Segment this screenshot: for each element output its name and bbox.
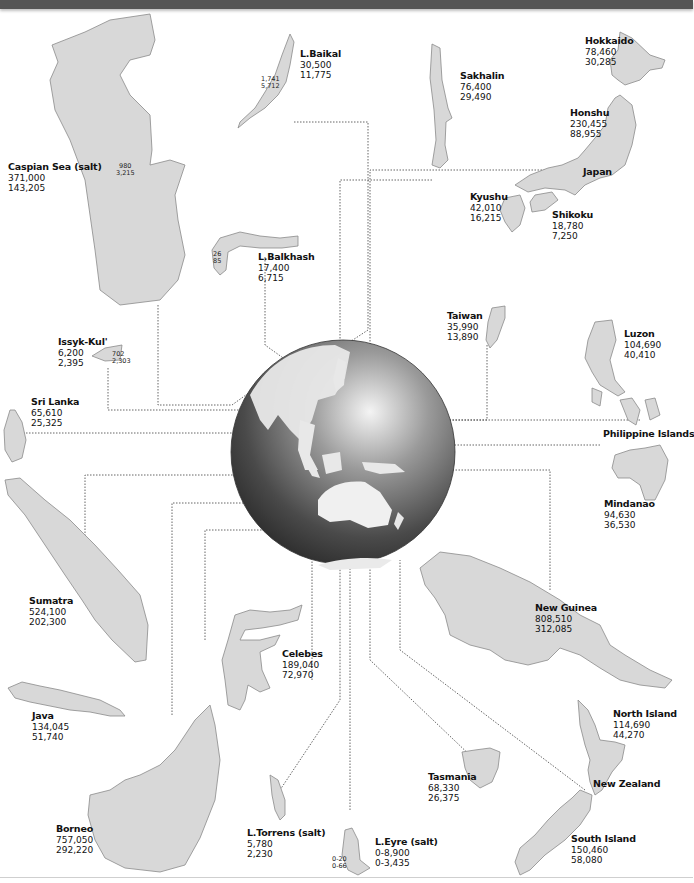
north-island-label: North Island 114,690 44,270 — [613, 709, 677, 740]
balkhash-area-mi: 6,715 — [258, 274, 314, 284]
baikal-area-mi: 11,775 — [300, 71, 341, 81]
caspian-depth: 980 3,215 — [116, 163, 135, 177]
eyre-area-mi: 0-3,435 — [375, 859, 438, 869]
sri-lanka-area-mi: 25,325 — [31, 419, 79, 429]
hokkaido-name: Hokkaido — [585, 36, 634, 46]
baikal-depth: 1,741 5,712 — [261, 76, 280, 90]
new-guinea-name: New Guinea — [535, 603, 597, 613]
taiwan-name: Taiwan — [447, 311, 483, 321]
shikoku-area-mi: 7,250 — [552, 232, 593, 242]
torrens-label: L.Torrens (salt) 5,780 2,230 — [247, 828, 325, 859]
luzon-shape — [585, 320, 625, 396]
torrens-name: L.Torrens (salt) — [247, 828, 325, 838]
balkhash-depth-ft: 85 — [213, 258, 221, 265]
south-island-area-mi: 58,080 — [571, 856, 636, 866]
honshu-label: Honshu 230,455 88,955 — [570, 108, 609, 139]
sri-lanka-label: Sri Lanka 65,610 25,325 — [31, 397, 79, 428]
shikoku-label: Shikoku 18,780 7,250 — [552, 210, 593, 241]
java-name: Java — [32, 711, 69, 721]
borneo-name: Borneo — [56, 824, 93, 834]
hokkaido-label: Hokkaido 78,460 30,285 — [585, 36, 634, 67]
torrens-area-mi: 2,230 — [247, 850, 325, 860]
taiwan-label: Taiwan 35,990 13,890 — [447, 311, 483, 342]
north-island-name: North Island — [613, 709, 677, 719]
sakhalin-name: Sakhalin — [460, 71, 504, 81]
sumatra-label: Sumatra 524,100 202,300 — [29, 596, 73, 627]
luzon-area-mi: 40,410 — [624, 351, 661, 361]
hokkaido-area-mi: 30,285 — [585, 58, 634, 68]
philippines-tag: Philippine Islands — [603, 428, 694, 439]
issyk-kul-name: Issyk-Kul' — [58, 337, 107, 347]
mindanao-area-mi: 36,530 — [604, 521, 655, 531]
honshu-area-mi: 88,955 — [570, 130, 609, 140]
luzon-label: Luzon 104,690 40,410 — [624, 329, 661, 360]
new-guinea-area-mi: 312,085 — [535, 625, 597, 635]
issyk-kul-depth-ft: 2,303 — [112, 358, 131, 365]
kyushu-name: Kyushu — [470, 192, 508, 202]
taiwan-shape — [486, 306, 505, 348]
sumatra-name: Sumatra — [29, 596, 73, 606]
honshu-name: Honshu — [570, 108, 609, 118]
balkhash-label: L.Balkhash 17,400 6,715 — [258, 252, 314, 283]
globe — [231, 340, 455, 570]
baikal-depth-ft: 5,712 — [261, 83, 280, 90]
tasmania-area-mi: 26,375 — [428, 794, 476, 804]
issyk-kul-depth: 702 2,303 — [112, 351, 131, 365]
south-island-label: South Island 150,460 58,080 — [571, 834, 636, 865]
java-label: Java 134,045 51,740 — [32, 711, 69, 742]
caspian-name: Caspian Sea (salt) — [8, 162, 102, 172]
japan-tag: Japan — [583, 166, 612, 177]
taiwan-area-mi: 13,890 — [447, 333, 483, 343]
lake-torrens-shape — [270, 775, 285, 820]
south-island-name: South Island — [571, 834, 636, 844]
sumatra-area-mi: 202,300 — [29, 618, 73, 628]
caspian-sea-shape — [50, 14, 185, 305]
sakhalin-shape — [430, 44, 452, 168]
sri-lanka-shape — [4, 410, 26, 462]
samar-shape — [645, 398, 660, 420]
kyushu-label: Kyushu 42,010 16,215 — [470, 192, 508, 223]
sakhalin-area-mi: 29,490 — [460, 93, 504, 103]
caspian-depth-ft: 3,215 — [116, 170, 135, 177]
mindanao-label: Mindanao 94,630 36,530 — [604, 499, 655, 530]
celebes-label: Celebes 189,040 72,970 — [282, 649, 323, 680]
issyk-kul-label: Issyk-Kul' 6,200 2,395 — [58, 337, 107, 368]
new-zealand-tag: New Zealand — [593, 778, 660, 789]
borneo-label: Borneo 757,050 292,220 — [56, 824, 93, 855]
caspian-label: Caspian Sea (salt) 371,000 143,205 — [8, 162, 102, 193]
kyushu-area-mi: 16,215 — [470, 214, 508, 224]
balkhash-depth: 26 85 — [213, 251, 221, 265]
celebes-name: Celebes — [282, 649, 323, 659]
eyre-depth: 0-20 0-66 — [332, 856, 347, 870]
borneo-area-mi: 292,220 — [56, 846, 93, 856]
sri-lanka-name: Sri Lanka — [31, 397, 79, 407]
sakhalin-label: Sakhalin 76,400 29,490 — [460, 71, 504, 102]
borneo-shape — [88, 705, 220, 872]
tasmania-label: Tasmania 68,330 26,375 — [428, 772, 476, 803]
mindanao-shape — [612, 445, 668, 500]
new-guinea-label: New Guinea 808,510 312,085 — [535, 603, 597, 634]
luzon-name: Luzon — [624, 329, 661, 339]
eyre-name: L.Eyre (salt) — [375, 837, 438, 847]
caspian-area-mi: 143,205 — [8, 184, 102, 194]
bottom-divider — [0, 877, 693, 878]
balkhash-name: L.Balkhash — [258, 252, 314, 262]
issyk-kul-area-mi: 2,395 — [58, 359, 107, 369]
shikoku-name: Shikoku — [552, 210, 593, 220]
mindanao-name: Mindanao — [604, 499, 655, 509]
java-area-mi: 51,740 — [32, 733, 69, 743]
north-island-area-mi: 44,270 — [613, 731, 677, 741]
palawan-shape — [592, 388, 602, 406]
visayas-shape — [620, 398, 640, 425]
tasmania-name: Tasmania — [428, 772, 476, 782]
eyre-depth-ft: 0-66 — [332, 863, 347, 870]
baikal-name: L.Baikal — [300, 49, 341, 59]
eyre-label: L.Eyre (salt) 0-8,900 0-3,435 — [375, 837, 438, 868]
baikal-label: L.Baikal 30,500 11,775 — [300, 49, 341, 80]
celebes-area-mi: 72,970 — [282, 671, 323, 681]
sumatra-shape — [5, 478, 148, 662]
